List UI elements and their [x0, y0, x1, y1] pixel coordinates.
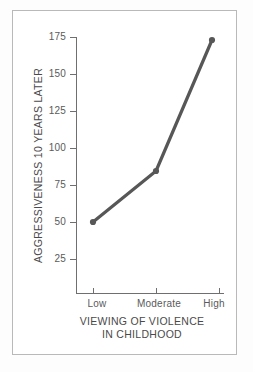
data-point-low [90, 219, 96, 225]
x-axis-title: VIEWING OF VIOLENCE IN CHILDHOOD [62, 315, 222, 341]
figure: 175 150 125 100 75 50 25 Low Mode [0, 0, 253, 372]
plot-area: 175 150 125 100 75 50 25 Low Mode [0, 0, 253, 372]
data-point-moderate [153, 168, 159, 174]
y-axis-title: AGGRESSIVENESS 10 YEARS LATER [33, 66, 44, 266]
series-polyline [93, 40, 212, 222]
x-axis-title-line-2: IN CHILDHOOD [62, 328, 222, 341]
x-axis-title-line-1: VIEWING OF VIOLENCE [62, 315, 222, 328]
data-point-high [209, 37, 215, 43]
